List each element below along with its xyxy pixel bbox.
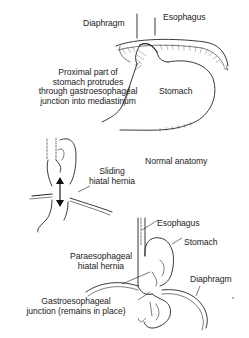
label-gastroesophageal-junction: Gastroesophageal junction (remains in pl… (14, 297, 138, 316)
label-proximal-line-4: junction into mediastinum (29, 97, 147, 107)
label-sliding-hiatal-hernia: Sliding hiatal hernia (82, 167, 142, 186)
hiatal-hernia-diagram: Diaphragm Esophagus Proximal part of sto… (0, 0, 249, 338)
label-sliding-line-2: hiatal hernia (82, 177, 142, 187)
label-normal-anatomy: Normal anatomy (145, 157, 207, 167)
label-diaphragm-normal: Diaphragm (83, 19, 125, 29)
label-paraesophageal-hiatal-hernia: Paraesophageal hiatal hernia (55, 252, 132, 271)
label-stomach-para: Stomach (184, 238, 218, 248)
label-proximal-part: Proximal part of stomach protrudes throu… (29, 68, 147, 106)
label-para-line-2: hiatal hernia (55, 262, 132, 272)
label-gej-line-2: junction (remains in place) (14, 307, 138, 317)
label-diaphragm-para: Diaphragm (190, 275, 232, 285)
label-esophagus-normal: Esophagus (163, 13, 206, 23)
label-esophagus-para: Esophagus (157, 219, 200, 229)
label-stomach-normal: Stomach (159, 87, 193, 97)
